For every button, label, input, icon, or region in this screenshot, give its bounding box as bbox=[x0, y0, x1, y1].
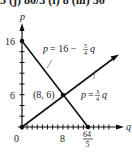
svg-text:5: 5 bbox=[84, 43, 87, 49]
svg-text:p: p bbox=[42, 43, 48, 54]
x-tick-0: 0 bbox=[14, 133, 19, 144]
svg-text:= 16 −: = 16 − bbox=[50, 43, 77, 54]
point-p16 bbox=[20, 39, 25, 44]
x-axis-label: q bbox=[126, 121, 131, 132]
y-axis-label: p bbox=[19, 11, 25, 22]
x-tick-8: 8 bbox=[60, 133, 65, 144]
svg-text:3: 3 bbox=[96, 89, 99, 95]
demand-leader bbox=[47, 60, 52, 68]
demand-label: p = 16 − 5 4 q bbox=[42, 43, 95, 56]
supply-label: p = 3 4 q bbox=[80, 89, 107, 102]
svg-text:=: = bbox=[88, 89, 94, 100]
svg-text:p: p bbox=[80, 89, 86, 100]
point-q-intercept bbox=[86, 125, 91, 130]
x-tick-64-den: 5 bbox=[86, 140, 90, 149]
svg-text:4: 4 bbox=[96, 96, 99, 102]
svg-text:q: q bbox=[102, 89, 107, 100]
y-tick-6: 6 bbox=[10, 90, 15, 101]
point-origin bbox=[20, 125, 25, 130]
svg-text:q: q bbox=[90, 43, 95, 54]
supply-demand-chart: p q 16 6 0 8 64 5 (8, 6) p = 16 − 5 4 q … bbox=[0, 0, 132, 158]
svg-text:4: 4 bbox=[84, 50, 87, 56]
x-axis-arrow-icon bbox=[116, 125, 124, 130]
y-tick-16: 16 bbox=[5, 36, 15, 47]
supply-leader bbox=[94, 70, 95, 79]
x-tick-64-num: 64 bbox=[83, 130, 91, 139]
point-equilibrium bbox=[61, 93, 66, 98]
y-axis-arrow-icon bbox=[20, 23, 25, 31]
equilibrium-label: (8, 6) bbox=[33, 89, 55, 101]
